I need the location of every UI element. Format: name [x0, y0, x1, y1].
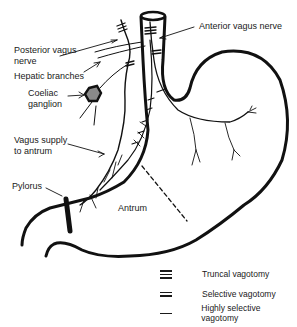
label-pylorus: Pylorus [12, 181, 42, 192]
truncal-mark-anterior [145, 27, 156, 34]
greater-curvature [46, 17, 288, 256]
single-bar-icon [156, 307, 179, 319]
selective-mark-posterior [126, 61, 134, 66]
truncal-mark-posterior [117, 23, 127, 32]
arrow-pylorus [46, 188, 62, 196]
antrum-boundary [142, 166, 187, 221]
label-anterior-vagus: Anterior vagus nerve [199, 21, 282, 32]
posterior-vagus-trunk [80, 20, 130, 205]
legend-label: Truncal vagotomy [202, 269, 269, 279]
arrow-vagus-supply [68, 144, 104, 154]
label-antrum: Antrum [118, 203, 147, 214]
double-bar-icon [156, 288, 180, 300]
triple-bar-icon [156, 268, 180, 280]
arrow-coeliac [68, 95, 84, 96]
label-coeliac-ganglion: Coeliac ganglion [28, 88, 62, 110]
legend-label: Highly selective vagotomy [201, 303, 297, 323]
arrow-hepatic [84, 62, 100, 72]
legend-item-selective: Selective vagotomy [156, 288, 276, 300]
label-vagus-supply: Vagus supply to antrum [14, 135, 67, 157]
legend-item-truncal: Truncal vagotomy [156, 268, 269, 280]
coeliac-ganglion [85, 86, 101, 101]
label-posterior-vagus: Posterior vagus nerve [14, 45, 77, 67]
legend-item-highly-selective: Highly selective vagotomy [156, 307, 297, 319]
label-hepatic-branches: Hepatic branches [14, 71, 84, 82]
legend-label: Selective vagotomy [202, 289, 276, 299]
oesophagus-opening [141, 12, 165, 20]
